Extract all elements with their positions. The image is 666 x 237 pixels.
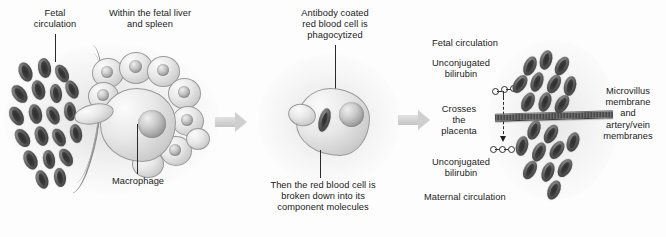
label-macrophage: Macrophage (103, 176, 173, 187)
label-fetal-circulation-right: Fetal circulation (432, 38, 528, 49)
label-unconjugated-bilirubin-top: Unconjugated bilirubin (418, 58, 504, 80)
label-broken-down: Then the red blood cell is broken down i… (249, 180, 397, 214)
label-maternal-circulation: Maternal circulation (424, 192, 534, 203)
process-arrow-1 (215, 112, 249, 132)
label-crosses-the-placenta: Crosses the placenta (424, 104, 494, 138)
figure-canvas: Fetal circulation Within the fetal liver… (0, 0, 666, 237)
leader-broken-down (320, 150, 321, 178)
bilirubin-transfer-arrowhead (500, 136, 506, 142)
label-unconjugated-bilirubin-bottom: Unconjugated bilirubin (418, 157, 504, 179)
macrophage-nucleus-middle (339, 102, 364, 127)
macrophage-nucleus-left (138, 110, 166, 138)
label-antibody-coated-rbc: Antibody coated red blood cell is phagoc… (279, 8, 391, 42)
leader-fetal-circulation-left (55, 34, 56, 62)
leader-macrophage (137, 124, 138, 174)
label-fetal-circulation-left: Fetal circulation (16, 8, 94, 30)
label-within-liver-spleen: Within the fetal liver and spleen (88, 8, 212, 30)
